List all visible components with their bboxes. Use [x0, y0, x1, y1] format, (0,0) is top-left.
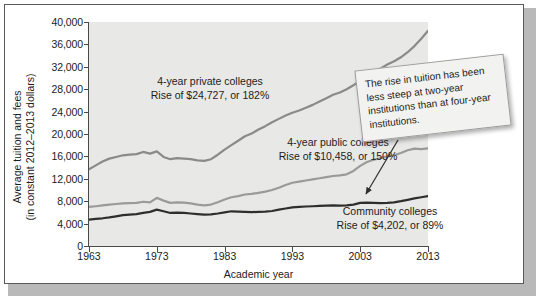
callout-arrow — [0, 0, 536, 298]
figure-root: 04,0008,00012,00016,00020,00024,00028,00… — [0, 0, 536, 298]
callout-text: The rise in tuition has been less steep … — [364, 62, 505, 131]
chart-plot-wrapper: 04,0008,00012,00016,00020,00024,00028,00… — [0, 0, 536, 298]
